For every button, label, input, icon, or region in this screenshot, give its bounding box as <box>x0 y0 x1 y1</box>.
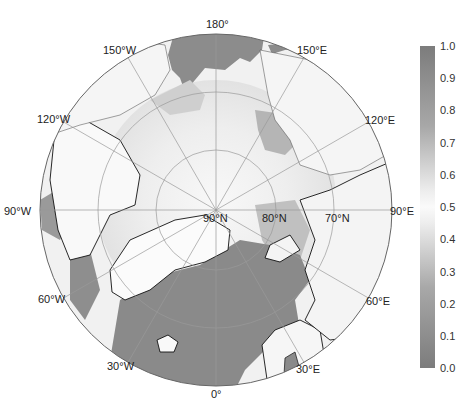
meridian-label-30w: 30°W <box>107 360 135 372</box>
colorbar: 1.0 0.9 0.8 0.7 0.6 0.5 0.4 0.3 0.2 0.1 … <box>420 40 455 374</box>
meridian-label-120w: 120°W <box>37 113 71 125</box>
pole-label: 90°N <box>203 212 228 224</box>
colorbar-tick: 1.0 <box>440 40 455 52</box>
parallel-label-80: 80°N <box>262 212 287 224</box>
meridian-label-60e: 60°E <box>366 295 390 307</box>
meridian-label-120e: 120°E <box>365 114 395 126</box>
meridian-label-30e: 30°E <box>296 363 320 375</box>
colorbar-tick: 0.3 <box>440 266 455 278</box>
colorbar-tick: 0.5 <box>440 201 455 213</box>
colorbar-tick: 0.7 <box>440 137 455 149</box>
meridian-label-150e: 150°E <box>297 44 327 56</box>
meridian-label-180: 180° <box>206 18 229 30</box>
colorbar-tick: 0.6 <box>440 169 455 181</box>
meridian-label-90e: 90°E <box>390 205 414 217</box>
arctic-map-figure: 90°N 80°N 70°N 180° 150°W 120°W 90°W 60°… <box>0 0 475 417</box>
colorbar-tick: 0.2 <box>440 298 455 310</box>
parallel-label-70: 70°N <box>325 212 350 224</box>
colorbar-tick: 0.9 <box>440 72 455 84</box>
colorbar-tick: 0.1 <box>440 330 455 342</box>
colorbar-tick: 0.4 <box>440 233 455 245</box>
meridian-label-0: 0° <box>211 388 222 400</box>
colorbar-tick: 0.8 <box>440 104 455 116</box>
colorbar-gradient <box>420 46 435 368</box>
meridian-label-150w: 150°W <box>103 44 137 56</box>
colorbar-tick: 0.0 <box>440 362 455 374</box>
meridian-label-60w: 60°W <box>38 293 66 305</box>
meridian-label-90w: 90°W <box>4 205 32 217</box>
